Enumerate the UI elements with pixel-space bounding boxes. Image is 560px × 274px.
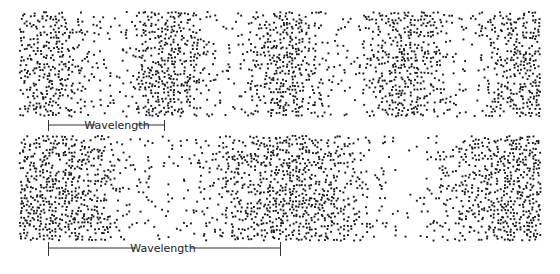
wavelength-diagram: Wavelength Wavelength (0, 0, 560, 274)
short-wavelength-panel (19, 11, 541, 117)
long-wavelength-bracket: Wavelength (48, 242, 281, 256)
wavelength-label-bottom: Wavelength (130, 242, 195, 255)
short-wavelength-bracket: Wavelength (48, 119, 165, 132)
long-wavelength-panel (19, 135, 542, 242)
wavelength-label-top: Wavelength (84, 119, 149, 132)
